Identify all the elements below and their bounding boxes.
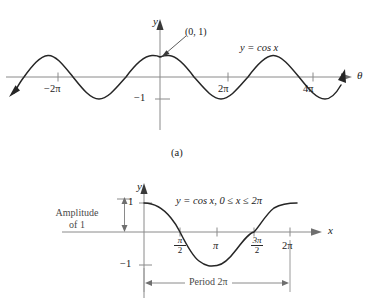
panel-a-point-label: (0, 1) [185,26,207,37]
panel-b-y-axis-label: y [137,180,142,192]
panel-a-plot [0,0,374,160]
panel-a-point-callout-arrow [161,36,186,58]
panel-a-y-tick-label-minus1: −1 [134,92,145,103]
panel-a-x-axis-label: θ [357,69,362,81]
panel-b-x-tick-label-2pi: 2π [282,240,293,251]
panel-a-y-axis-label: y [153,15,158,27]
panel-b-y-tick-label-minus1: −1 [120,258,131,269]
panel-a-y-axis [156,19,163,130]
panel-b-x-axis-label: x [328,224,333,236]
figure-caption-a: (a) [171,147,183,158]
panel-b-amplitude-label: Amplitude of 1 [40,207,114,230]
panel-b-x-tick-label-pi-over-2: π 2 [172,236,188,255]
three-pi-over-2-numerator: 3π [247,236,267,245]
panel-b-y-tick-label-1: 1 [128,196,133,207]
pi-over-2-numerator: π [172,236,188,245]
panel-b-x-tick-label-pi: π [213,240,218,251]
amplitude-label-line2: of 1 [69,219,85,230]
amplitude-label-line1: Amplitude [56,207,99,218]
panel-b-period-label: Period 2π [185,276,232,287]
cosine-graphs-figure: y θ (0, 1) y = cos x −2π 2π 4π −1 (a) [0,0,374,300]
pi-over-2-denominator: 2 [172,246,188,255]
panel-a-x-tick-label-2pi: 2π [218,83,229,94]
panel-a-equation-label: y = cos x [240,42,278,53]
panel-b-y-ticks [139,203,152,265]
panel-b-cosine-curve [144,203,297,266]
panel-b-x-tick-label-3pi-over-2: 3π 2 [247,236,267,255]
three-pi-over-2-denominator: 2 [247,246,267,255]
panel-b-equation-label: y = cos x, 0 ≤ x ≤ 2π [176,195,262,206]
panel-a-x-tick-label-4pi: 4π [303,83,314,94]
panel-a-x-tick-label-minus2pi: −2π [44,83,60,94]
